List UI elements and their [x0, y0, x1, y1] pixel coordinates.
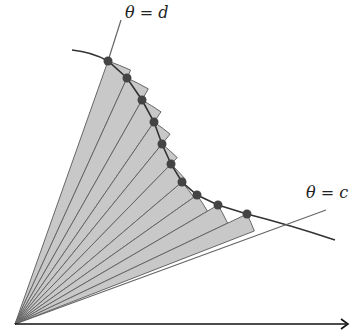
sectors-group [15, 61, 254, 324]
ray-theta-d [108, 20, 121, 61]
label-theta-d: θ = d [125, 3, 168, 22]
sample-point [193, 191, 202, 200]
label-theta-c: θ = c [306, 183, 348, 202]
sample-point [123, 74, 132, 83]
sample-point [214, 201, 223, 210]
sample-point [138, 96, 147, 105]
sample-point [243, 210, 252, 219]
sample-point [158, 140, 167, 149]
polar-diagram: θ = d θ = c [0, 0, 364, 332]
sample-point [178, 178, 187, 187]
sample-point [150, 118, 159, 127]
sample-point [104, 57, 113, 66]
sample-point [167, 160, 176, 169]
